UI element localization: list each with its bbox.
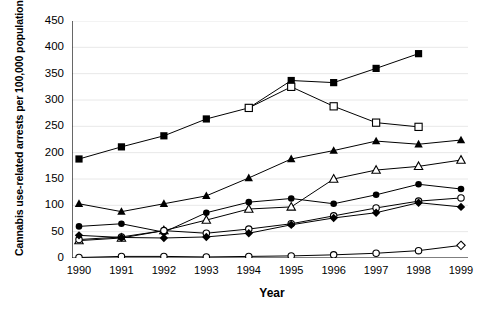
marker-open-circle <box>76 254 82 258</box>
marker-open-square <box>245 104 252 111</box>
marker-open-square <box>288 83 295 90</box>
marker-filled-diamond <box>457 203 465 211</box>
y-tick-text: 0 <box>18 252 64 264</box>
marker-open-circle <box>458 195 464 201</box>
y-tick-text: 100 <box>18 199 64 211</box>
marker-filled-square <box>160 132 167 139</box>
marker-filled-circle <box>330 200 337 207</box>
series-open-square <box>245 83 422 130</box>
x-tick-label: 1999 <box>433 265 483 276</box>
marker-filled-diamond <box>160 234 168 242</box>
y-tick-text: 150 <box>18 173 64 185</box>
marker-open-diamond <box>457 241 465 249</box>
marker-open-circle <box>161 227 167 233</box>
marker-filled-triangle <box>372 137 380 145</box>
marker-filled-circle <box>458 186 465 193</box>
marker-filled-square <box>415 50 422 57</box>
marker-filled-square <box>330 79 337 86</box>
marker-filled-circle <box>245 199 252 206</box>
marker-open-square <box>373 119 380 126</box>
y-tick-text: 200 <box>18 147 64 159</box>
chart-figure: Cannabis use-related arrests per 100,000… <box>0 0 483 309</box>
y-tick-text: 250 <box>18 120 64 132</box>
series-line <box>79 245 461 257</box>
marker-filled-circle <box>415 181 422 188</box>
plot-area <box>72 21 468 258</box>
series-open-circle-lower <box>76 241 465 258</box>
marker-filled-square <box>203 115 210 122</box>
marker-filled-circle <box>373 192 380 199</box>
y-tick-text: 350 <box>18 68 64 80</box>
marker-filled-square <box>373 65 380 72</box>
marker-filled-circle <box>203 209 210 216</box>
x-axis-title: Year <box>72 286 472 300</box>
y-tick-text: 300 <box>18 94 64 106</box>
marker-filled-triangle <box>245 174 253 182</box>
marker-filled-square <box>118 143 125 150</box>
marker-filled-triangle <box>202 191 210 199</box>
series-line <box>79 140 461 212</box>
marker-open-triangle <box>457 156 465 164</box>
marker-filled-square <box>75 155 82 162</box>
marker-open-circle <box>330 252 336 258</box>
marker-open-circle <box>246 253 252 258</box>
y-tick-text: 450 <box>18 15 64 27</box>
y-tick-text: 50 <box>18 226 64 238</box>
marker-open-square <box>330 103 337 110</box>
marker-open-triangle <box>287 203 295 211</box>
series-line <box>79 198 461 240</box>
marker-open-square <box>415 123 422 130</box>
marker-filled-circle <box>118 220 125 227</box>
marker-open-circle <box>203 254 209 258</box>
marker-open-circle <box>161 253 167 258</box>
y-tick-text: 400 <box>18 41 64 53</box>
marker-open-circle <box>118 253 124 258</box>
marker-open-circle <box>288 253 294 258</box>
marker-filled-circle <box>288 195 295 202</box>
marker-filled-triangle <box>75 199 83 207</box>
marker-open-circle <box>373 250 379 256</box>
marker-filled-circle <box>76 223 83 230</box>
marker-filled-triangle <box>457 136 465 144</box>
marker-open-circle <box>415 247 421 253</box>
chart-svg <box>72 21 468 258</box>
